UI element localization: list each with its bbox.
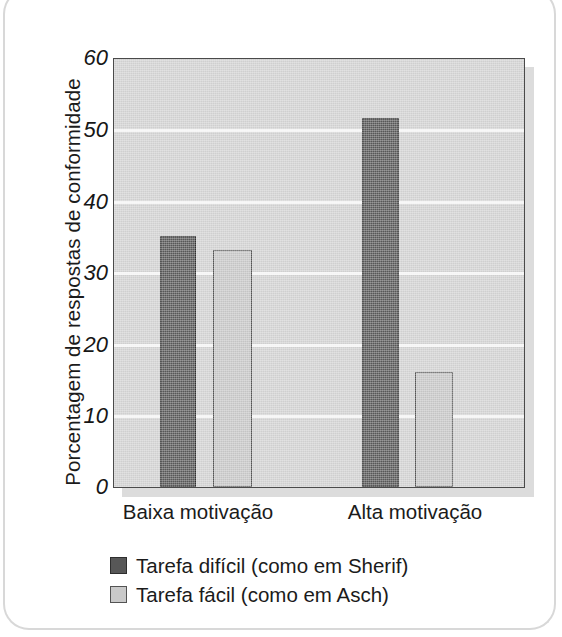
chart-legend: Tarefa difícil (como em Sherif) Tarefa f… bbox=[110, 551, 408, 609]
y-tick-10: 10 bbox=[56, 403, 108, 429]
gridline-50 bbox=[114, 129, 524, 132]
bar-baixa-facil bbox=[213, 250, 252, 487]
y-tick-60: 60 bbox=[56, 45, 108, 71]
x-tick-label-baixa-motivacao: Baixa motivação bbox=[113, 500, 283, 524]
legend-swatch-light-icon bbox=[110, 586, 127, 603]
legend-item-tarefa-facil: Tarefa fácil (como em Asch) bbox=[110, 580, 408, 609]
x-tick-label-alta-motivacao: Alta motivação bbox=[330, 500, 500, 524]
chart-figure: Porcentagem de respostas de conformidade… bbox=[0, 0, 562, 637]
y-tick-0: 0 bbox=[56, 474, 108, 500]
y-tick-20: 20 bbox=[56, 332, 108, 358]
y-axis-tick-labels: 60 50 40 30 20 10 0 bbox=[48, 0, 108, 637]
bar-alta-dificil bbox=[362, 118, 399, 487]
legend-label-tarefa-dificil: Tarefa difícil (como em Sherif) bbox=[136, 554, 408, 578]
legend-item-tarefa-dificil: Tarefa difícil (como em Sherif) bbox=[110, 551, 408, 580]
y-tick-30: 30 bbox=[56, 260, 108, 286]
y-tick-50: 50 bbox=[56, 117, 108, 143]
plot-area bbox=[113, 58, 525, 488]
legend-label-tarefa-facil: Tarefa fácil (como em Asch) bbox=[136, 583, 389, 607]
bar-baixa-dificil bbox=[160, 236, 196, 487]
bar-alta-facil bbox=[415, 372, 453, 487]
legend-swatch-dark-icon bbox=[110, 557, 127, 574]
gridline-40 bbox=[114, 201, 524, 204]
y-tick-40: 40 bbox=[56, 189, 108, 215]
